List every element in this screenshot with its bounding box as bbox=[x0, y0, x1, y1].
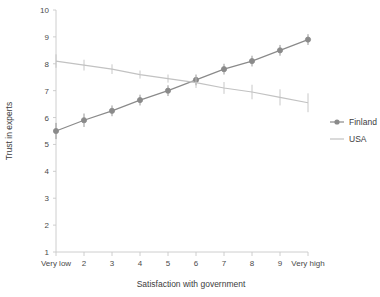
y-axis-tick-label: 1 bbox=[45, 248, 50, 257]
data-point bbox=[277, 48, 282, 53]
y-axis-tick-label: 9 bbox=[45, 33, 50, 42]
x-axis-tick-label: Very high bbox=[291, 259, 324, 268]
data-point bbox=[165, 88, 170, 93]
y-axis-tick-label: 10 bbox=[40, 6, 49, 15]
x-axis-tick-label: Very low bbox=[41, 259, 71, 268]
data-point bbox=[305, 37, 310, 42]
data-point bbox=[137, 97, 142, 102]
x-axis-tick-label: 8 bbox=[250, 259, 255, 268]
legend-label-finland: Finland bbox=[349, 117, 377, 127]
series-line bbox=[56, 61, 308, 103]
x-axis-title: Satisfaction with government bbox=[137, 279, 246, 289]
y-axis-tick-label: 5 bbox=[45, 140, 50, 149]
data-point bbox=[81, 118, 86, 123]
legend-marker-finland bbox=[334, 119, 339, 124]
line-chart: 12345678910 Very low23456789Very high Fi… bbox=[0, 0, 380, 297]
data-point bbox=[109, 108, 114, 113]
legend-label-usa: USA bbox=[349, 134, 367, 144]
y-axis-tick-label: 6 bbox=[45, 114, 50, 123]
data-series-group bbox=[53, 34, 310, 139]
y-axis-tick-label: 7 bbox=[45, 87, 50, 96]
x-axis-tick-label: 2 bbox=[82, 259, 87, 268]
x-axis-tick-label: 3 bbox=[110, 259, 115, 268]
x-axis-tick-label: 6 bbox=[194, 259, 199, 268]
x-axis-tick-label: 5 bbox=[166, 259, 171, 268]
y-axis-tick-label: 4 bbox=[45, 167, 50, 176]
y-axis-title: Trust in experts bbox=[4, 102, 14, 160]
data-point bbox=[249, 58, 254, 63]
data-point bbox=[53, 128, 58, 133]
y-axis-tick-label: 3 bbox=[45, 194, 50, 203]
series-line bbox=[56, 40, 308, 131]
y-axis-tick-label: 8 bbox=[45, 60, 50, 69]
x-axis-tick-label: 4 bbox=[138, 259, 143, 268]
x-axis-tick-label: 7 bbox=[222, 259, 227, 268]
series-finland bbox=[53, 34, 310, 139]
chart-container: 12345678910 Very low23456789Very high Fi… bbox=[0, 0, 380, 297]
chart-legend: FinlandUSA bbox=[330, 117, 377, 144]
x-axis: Very low23456789Very high bbox=[41, 252, 325, 268]
series-usa bbox=[56, 54, 308, 112]
data-point bbox=[221, 67, 226, 72]
y-axis-tick-label: 2 bbox=[45, 221, 50, 230]
x-axis-tick-label: 9 bbox=[278, 259, 283, 268]
